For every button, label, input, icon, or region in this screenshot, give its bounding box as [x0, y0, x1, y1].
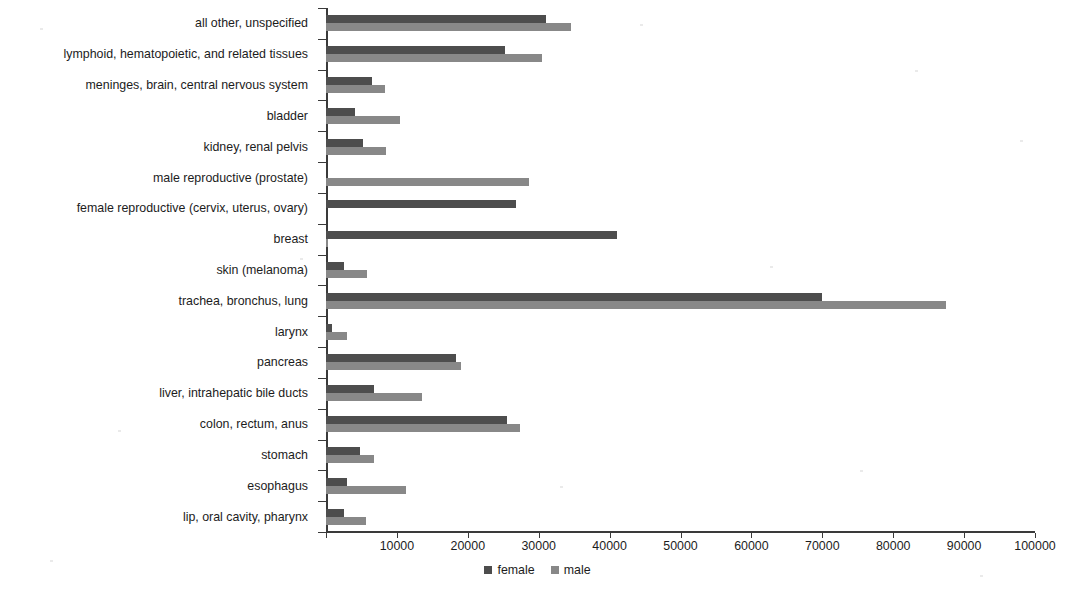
- category-tick: [318, 70, 326, 71]
- legend-item-male: male: [551, 563, 591, 577]
- bar-male: [326, 424, 520, 432]
- bar-male: [326, 270, 367, 278]
- bar-group: [326, 46, 1035, 62]
- bar-group: [326, 447, 1035, 463]
- bar-male: [326, 393, 422, 401]
- category-tick: [318, 162, 326, 163]
- bar-male: [326, 301, 946, 309]
- category-label: esophagus: [247, 479, 308, 493]
- value-tick: [397, 533, 398, 538]
- bar-male: [326, 147, 386, 155]
- category-label: female reproductive (cervix, uterus, ova…: [77, 201, 308, 215]
- bar-female: [326, 139, 363, 147]
- category-tick: [318, 409, 326, 410]
- bar-group: [326, 509, 1035, 525]
- value-tick-label: 60000: [734, 539, 768, 553]
- male-swatch-icon: [551, 566, 559, 574]
- category-label: meninges, brain, central nervous system: [86, 78, 308, 92]
- category-label: liver, intrahepatic bile ducts: [159, 386, 308, 400]
- value-tick: [964, 533, 965, 538]
- value-tick-label: 10000: [380, 539, 414, 553]
- category-tick: [318, 224, 326, 225]
- value-tick-label: 50000: [663, 539, 697, 553]
- bar-female: [326, 231, 617, 239]
- bar-group: [326, 139, 1035, 155]
- value-tick: [893, 533, 894, 538]
- category-tick: [318, 8, 326, 9]
- value-tick-label: 20000: [451, 539, 485, 553]
- bar-female: [326, 293, 822, 301]
- category-tick: [318, 347, 326, 348]
- bar-female: [326, 46, 505, 54]
- category-tick: [318, 378, 326, 379]
- value-tick: [468, 533, 469, 538]
- bar-group: [326, 354, 1035, 370]
- category-label: pancreas: [257, 355, 308, 369]
- category-tick: [318, 131, 326, 132]
- female-swatch-icon: [484, 566, 492, 574]
- category-tick: [318, 501, 326, 502]
- bar-male: [326, 517, 366, 525]
- bar-chart: all other, unspecifiedlymphoid, hematopo…: [0, 0, 1075, 590]
- category-label: kidney, renal pelvis: [204, 140, 308, 154]
- bar-male: [326, 178, 529, 186]
- category-tick: [318, 39, 326, 40]
- bar-group: [326, 416, 1035, 432]
- legend-label-male: male: [564, 563, 591, 577]
- bar-female: [326, 416, 507, 424]
- bar-group: [326, 77, 1035, 93]
- bar-female: [326, 15, 546, 23]
- bar-female: [326, 324, 332, 332]
- category-label: lymphoid, hematopoietic, and related tis…: [63, 47, 308, 61]
- value-tick-label: 90000: [947, 539, 981, 553]
- value-tick-label: 30000: [521, 539, 555, 553]
- value-tick: [610, 533, 611, 538]
- category-label: colon, rectum, anus: [200, 417, 308, 431]
- bar-group: [326, 293, 1035, 309]
- bar-male: [326, 362, 461, 370]
- category-label: stomach: [261, 448, 308, 462]
- bar-group: [326, 324, 1035, 340]
- bar-male: [326, 116, 400, 124]
- value-tick-label: 80000: [876, 539, 910, 553]
- value-tick-label: 100000: [1014, 539, 1055, 553]
- category-tick: [318, 440, 326, 441]
- bar-group: [326, 385, 1035, 401]
- category-label: male reproductive (prostate): [153, 171, 308, 185]
- category-tick: [318, 100, 326, 101]
- category-label: skin (melanoma): [216, 263, 308, 277]
- value-tick: [751, 533, 752, 538]
- bar-female: [326, 108, 355, 116]
- bar-group: [326, 231, 1035, 247]
- value-tick: [1035, 533, 1036, 538]
- category-label: breast: [274, 232, 308, 246]
- bar-male: [326, 332, 347, 340]
- bar-group: [326, 108, 1035, 124]
- category-tick: [318, 470, 326, 471]
- value-tick: [539, 533, 540, 538]
- value-tick: [681, 533, 682, 538]
- category-label: bladder: [267, 109, 308, 123]
- category-axis-labels: all other, unspecifiedlymphoid, hematopo…: [0, 8, 318, 532]
- value-tick: [822, 533, 823, 538]
- bar-male: [326, 23, 571, 31]
- bar-female: [326, 200, 516, 208]
- bar-male: [326, 455, 374, 463]
- bar-female: [326, 77, 372, 85]
- category-label: larynx: [275, 325, 308, 339]
- bar-female: [326, 354, 456, 362]
- legend-item-female: female: [484, 563, 534, 577]
- bar-female: [326, 478, 347, 486]
- category-tick: [318, 316, 326, 317]
- value-tick: [326, 533, 327, 538]
- category-tick: [318, 193, 326, 194]
- category-tick: [318, 532, 326, 533]
- bar-group: [326, 170, 1035, 186]
- bar-female: [326, 447, 360, 455]
- category-label: lip, oral cavity, pharynx: [183, 510, 308, 524]
- scan-speckle: [50, 560, 53, 562]
- bar-male: [326, 239, 328, 247]
- bar-female: [326, 509, 344, 517]
- category-label: all other, unspecified: [195, 16, 308, 30]
- bar-group: [326, 200, 1035, 216]
